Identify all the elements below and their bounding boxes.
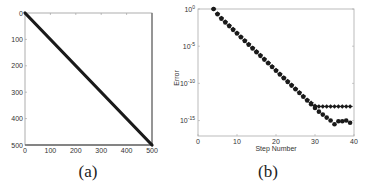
panel-b-y-tick-label: 10-10: [180, 78, 195, 87]
panel-a-x-tick-label: 500: [146, 147, 158, 154]
panel-b-x-axis-label: Step Number: [255, 145, 297, 153]
data-point-circle: [278, 72, 283, 77]
panel-a-caption: (a): [79, 162, 98, 181]
panel-a: 0100200300400500 0100200300400500 (a): [11, 10, 158, 182]
data-point-circle: [340, 119, 345, 124]
data-point-circle: [211, 7, 216, 12]
data-point-circle: [289, 83, 294, 88]
data-point-circle: [344, 118, 349, 123]
data-point-circle: [332, 122, 337, 127]
data-point-circle: [293, 87, 298, 92]
figure: 0100200300400500 0100200300400500 (a) 10…: [0, 0, 365, 187]
data-point-circle: [231, 28, 236, 33]
panel-a-x-tick-label: 200: [70, 147, 82, 154]
panel-a-y-tick-label: 0: [19, 10, 23, 17]
data-point-circle: [258, 54, 263, 59]
data-point-circle: [309, 102, 314, 107]
panel-a-y-tick-label: 500: [11, 142, 23, 149]
panel-b-x-tick-label: 20: [272, 138, 280, 145]
panel-b-y-tick-label: 10-5: [183, 41, 195, 50]
panel-b: 10010-510-1010-15 010203040 Error Step N…: [173, 4, 358, 182]
panel-a-x-tick-label: 300: [95, 147, 107, 154]
data-point-circle: [254, 50, 259, 55]
data-point-circle: [243, 39, 248, 44]
data-point-circle: [324, 115, 329, 120]
data-point-circle: [321, 112, 326, 117]
data-point-circle: [274, 68, 279, 73]
panel-b-caption: (b): [258, 162, 278, 181]
panel-a-y-tick-label: 100: [11, 36, 23, 43]
data-point-circle: [270, 65, 275, 70]
data-point-circle: [239, 35, 244, 40]
panel-a-diagonal-line: [25, 13, 152, 145]
data-point-circle: [227, 24, 232, 29]
data-point-circle: [285, 80, 290, 85]
data-point-circle: [250, 46, 255, 51]
data-point-circle: [297, 91, 302, 96]
panel-b-y-tick-label: 10-15: [180, 115, 195, 124]
data-point-circle: [215, 12, 220, 17]
data-point-circle: [246, 42, 251, 47]
panel-b-y-axis-label: Error: [173, 70, 180, 86]
panel-a-y-tick-label: 300: [11, 89, 23, 96]
data-point-circle: [328, 118, 333, 123]
data-point-circle: [348, 120, 353, 125]
data-point-circle: [266, 61, 271, 66]
data-point-circle: [305, 98, 310, 103]
panel-a-x-tick-label: 0: [23, 147, 27, 154]
data-point-circle: [262, 57, 267, 62]
data-point-circle: [313, 106, 318, 111]
panel-a-x-tick-label: 100: [45, 147, 57, 154]
panel-a-x-tick-label: 400: [121, 147, 133, 154]
panel-b-series: [211, 7, 353, 127]
data-point-circle: [301, 94, 306, 99]
data-point-circle: [317, 109, 322, 114]
panel-b-y-tick-label: 100: [184, 4, 195, 13]
data-point-circle: [235, 31, 240, 36]
data-point-circle: [219, 16, 224, 21]
panel-a-y-tick-label: 200: [11, 62, 23, 69]
data-point-circle: [223, 20, 228, 25]
panel-b-x-tick-label: 30: [311, 138, 319, 145]
data-point-circle: [282, 76, 287, 81]
panel-b-x-tick-label: 40: [350, 138, 358, 145]
panel-a-y-tick-label: 400: [11, 115, 23, 122]
panel-b-x-tick-label: 0: [196, 138, 200, 145]
panel-b-x-tick-label: 10: [233, 138, 241, 145]
